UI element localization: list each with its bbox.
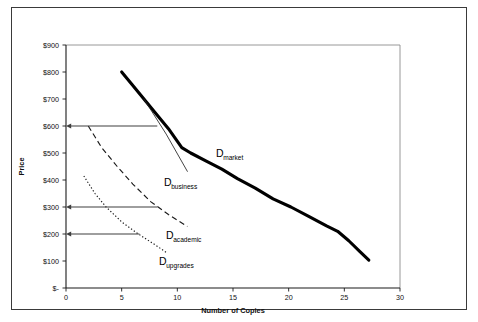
x-tick-label: 15: [229, 293, 237, 302]
curve-label-subscript: market: [223, 154, 243, 161]
curve-label-d-market: Dmarket: [216, 147, 244, 161]
y-tick-label: $200: [43, 230, 59, 239]
curve-label-subscript: academic: [173, 236, 202, 243]
curve-label-d-academic: Dacademic: [166, 229, 202, 243]
curve-d-upgrades: [84, 176, 166, 252]
curve-label-subscript: upgrades: [166, 262, 194, 270]
curve-label-d-business: Dbusiness: [164, 176, 198, 190]
x-tick-label: 5: [120, 293, 124, 302]
curve-label-subscript: business: [171, 183, 198, 190]
y-tick-label: $600: [43, 122, 59, 131]
curve-d-business: [144, 99, 187, 171]
x-tick-label: 10: [173, 293, 181, 302]
price-marker-200: [66, 231, 139, 236]
demand-curve-chart: $-$100$200$300$400$500$600$700$800$90005…: [0, 0, 478, 322]
x-axis-title: Number of Copies: [201, 306, 265, 315]
price-marker-300: [66, 204, 157, 209]
curve-d-academic: [88, 126, 187, 226]
x-tick-label: 0: [64, 293, 68, 302]
curve-label-d-upgrades: Dupgrades: [159, 255, 194, 270]
y-tick-label: $500: [43, 149, 59, 158]
x-tick-label: 25: [340, 293, 348, 302]
annotation-arrowhead-icon: [66, 123, 71, 128]
plot-area-border: [66, 45, 400, 288]
price-marker-600: [66, 123, 157, 128]
y-tick-label: $300: [43, 203, 59, 212]
y-tick-label: $700: [43, 95, 59, 104]
chart-figure: $-$100$200$300$400$500$600$700$800$90005…: [0, 0, 478, 322]
annotation-arrowhead-icon: [66, 231, 71, 236]
y-axis-title: Price: [17, 157, 26, 175]
y-tick-label: $900: [43, 41, 59, 50]
y-tick-label: $800: [43, 68, 59, 77]
curve-d-market: [122, 72, 369, 260]
x-tick-label: 30: [396, 293, 404, 302]
y-tick-label: $100: [43, 257, 59, 266]
y-tick-label: $-: [53, 284, 60, 293]
annotation-arrowhead-icon: [66, 204, 71, 209]
y-tick-label: $400: [43, 176, 59, 185]
x-tick-label: 20: [285, 293, 293, 302]
